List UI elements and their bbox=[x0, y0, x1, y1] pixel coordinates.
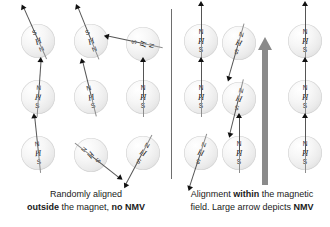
left-caption-line1: Randomly aligned bbox=[6, 188, 166, 201]
left-caption-bold-no-nmv: no NMV bbox=[112, 202, 146, 212]
panel-divider bbox=[171, 9, 172, 179]
spin-vector-shaft bbox=[201, 61, 202, 97]
spin-vector-head bbox=[302, 113, 308, 118]
proton-L-r3c3: SHN bbox=[126, 136, 160, 170]
proton-R-r3c2: NHS bbox=[222, 136, 256, 170]
right-caption-line1: Alignment within the magnetic bbox=[176, 188, 328, 201]
left-caption-line2: outside the magnet, no NMV bbox=[6, 201, 166, 214]
spin-vector-head bbox=[117, 174, 125, 182]
proton-R-r2c1: NHS bbox=[184, 80, 218, 114]
proton-R-r2c3: NHS bbox=[288, 80, 322, 114]
proton-R-r2c2: SHN bbox=[222, 82, 256, 116]
spin-vector-head bbox=[78, 58, 85, 64]
proton-R-r1c1: NHS bbox=[184, 24, 218, 58]
right-caption-post: the magnetic bbox=[259, 189, 313, 199]
right-caption-pre: Alignment bbox=[191, 189, 234, 199]
proton-L-r1c3: SHN bbox=[126, 27, 160, 61]
left-caption: Randomly aligned outside the magnet, no … bbox=[6, 188, 166, 213]
spin-vector-head bbox=[31, 113, 37, 119]
proton-L-r3c1: NHS bbox=[21, 136, 55, 170]
spin-vector-head bbox=[198, 57, 204, 62]
right-caption-bold-within: within bbox=[233, 189, 259, 199]
proton-L-r2c3: NHS bbox=[126, 80, 160, 114]
right-caption-bold-nmv: NMV bbox=[294, 202, 314, 212]
figure-canvas: SHNSHNSHNNHSNHSNHSNHSSHNSHN NHSSHNNHSNHS… bbox=[0, 0, 330, 227]
spin-vector-tail bbox=[305, 153, 306, 173]
left-caption-mid: the magnet, bbox=[59, 202, 112, 212]
spin-vector-head bbox=[198, 1, 204, 6]
spin-vector-head bbox=[236, 113, 242, 118]
spin-vector-head bbox=[302, 57, 308, 62]
spin-vector-head bbox=[73, 3, 80, 10]
proton-R-r3c1: SHN bbox=[184, 136, 218, 170]
spin-vector-head bbox=[140, 57, 146, 62]
proton-R-r1c2: SHN bbox=[222, 26, 256, 60]
right-caption-line2-pre: field. Large arrow depicts bbox=[190, 202, 293, 212]
spin-vector-shaft bbox=[201, 5, 202, 41]
proton-R-r3c3: NHS bbox=[288, 136, 322, 170]
proton-L-r1c1: SHN bbox=[21, 24, 55, 58]
spin-vector-head bbox=[19, 3, 27, 10]
nmv-arrow-shaft bbox=[262, 48, 268, 185]
proton-R-r1c3: NHS bbox=[288, 24, 322, 58]
right-caption: Alignment within the magnetic field. Lar… bbox=[176, 188, 328, 213]
spin-vector-tail bbox=[239, 153, 240, 173]
spin-vector-shaft bbox=[305, 61, 306, 97]
spin-vector-shaft bbox=[239, 117, 240, 153]
spin-vector-shaft bbox=[143, 61, 144, 97]
spin-vector-shaft bbox=[305, 117, 306, 153]
proton-L-r3c2: SHN bbox=[74, 138, 108, 172]
left-caption-bold-outside: outside bbox=[27, 202, 59, 212]
proton-L-r1c2: SHN bbox=[74, 24, 108, 58]
right-caption-line2: field. Large arrow depicts NMV bbox=[176, 201, 328, 214]
proton-L-r2c2: NHS bbox=[74, 80, 108, 114]
spin-vector-tail bbox=[143, 97, 144, 117]
nmv-arrow bbox=[258, 37, 272, 185]
spin-vector-head bbox=[37, 57, 43, 62]
spin-vector-shaft bbox=[305, 5, 306, 41]
spin-vector-tail bbox=[201, 97, 202, 117]
proton-L-r2c1: NHS bbox=[21, 80, 55, 114]
spin-vector-head bbox=[302, 1, 308, 6]
